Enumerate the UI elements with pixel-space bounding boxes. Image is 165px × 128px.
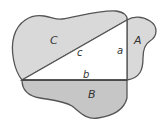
region-b-shape xyxy=(22,80,127,118)
side-b-label: b xyxy=(83,69,89,80)
region-a-shape xyxy=(127,17,156,80)
side-a-label: a xyxy=(117,45,123,56)
region-b-label: B xyxy=(88,88,96,101)
side-c-label: c xyxy=(77,47,83,58)
region-a-label: A xyxy=(133,34,142,47)
region-c-label: C xyxy=(50,34,58,47)
pythagorean-shapes-diagram: C A B c a b xyxy=(0,0,165,128)
